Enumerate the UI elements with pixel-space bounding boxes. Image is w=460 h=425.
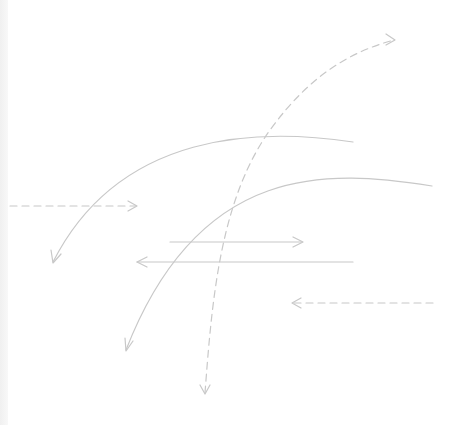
arrow-dashed-horizontal-right bbox=[10, 201, 137, 211]
arrow-solid-horizontal-right bbox=[170, 237, 303, 247]
arrow-dashed-horizontal-left bbox=[292, 298, 433, 308]
diagram-canvas bbox=[0, 0, 460, 425]
arrowhead-right-icon bbox=[386, 34, 395, 45]
arrow-solid-curve-upper bbox=[51, 136, 353, 263]
arrow-solid-horizontal-left bbox=[137, 257, 353, 267]
arrowhead-down-left-icon bbox=[125, 338, 133, 351]
arrow-dashed-curve-vertical bbox=[200, 34, 395, 394]
arrow-solid-curve-lower bbox=[125, 178, 432, 351]
